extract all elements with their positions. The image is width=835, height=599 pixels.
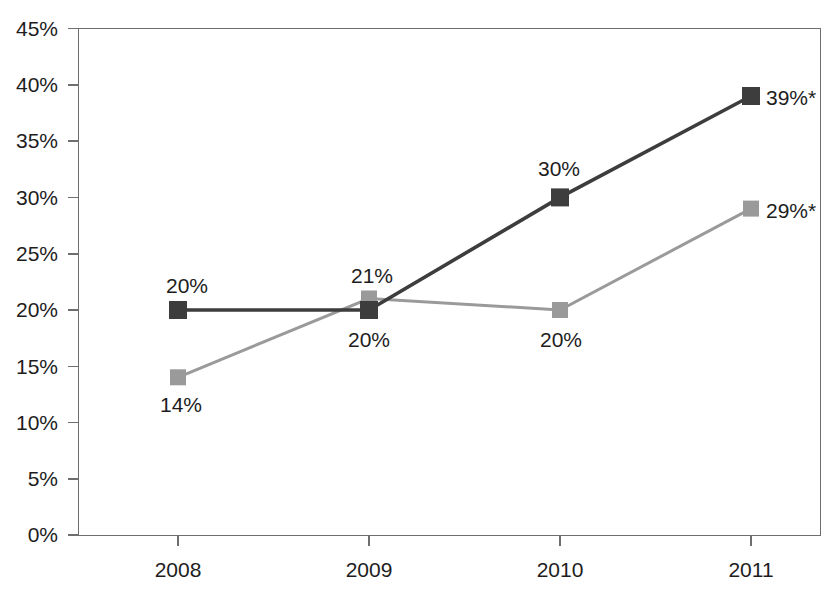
x-tick-label-2011: 2011: [728, 558, 773, 581]
dark-point-label-2010: 30%: [538, 157, 580, 180]
y-tick-label-5: 5%: [28, 467, 58, 490]
series-light-marker-2010: [552, 302, 568, 318]
x-tick-label-2009: 2009: [346, 558, 393, 581]
series-dark-line: [178, 96, 751, 310]
series-light-marker-2011: [743, 201, 759, 217]
chart-canvas: 45% 40% 35% 30% 25% 20% 15% 10% 5% 0% 20…: [0, 0, 835, 599]
y-tick-label-40: 40%: [16, 73, 58, 96]
y-tick-label-45: 45%: [16, 17, 58, 40]
y-tick-label-0: 0%: [28, 523, 58, 546]
x-axis-labels: 2008 2009 2010 2011: [155, 558, 774, 581]
y-tick-label-15: 15%: [16, 355, 58, 378]
x-tick-label-2008: 2008: [155, 558, 202, 581]
light-point-labels: 14% 21% 20% 29%*: [160, 199, 816, 416]
light-point-label-2010: 20%: [540, 328, 582, 351]
dark-point-label-2008: 20%: [166, 274, 208, 297]
light-point-label-2011: 29%*: [766, 199, 816, 222]
series-dark-marker-2011: [742, 87, 760, 105]
line-chart: 45% 40% 35% 30% 25% 20% 15% 10% 5% 0% 20…: [0, 0, 835, 599]
series-dark-series: [169, 87, 760, 319]
light-point-label-2008: 14%: [160, 393, 202, 416]
dark-point-label-2009: 20%: [348, 328, 390, 351]
x-tick-label-2010: 2010: [537, 558, 584, 581]
y-axis-ticks: [68, 29, 79, 536]
series-light-marker-2008: [170, 369, 186, 385]
series-dark-marker-2010: [551, 188, 569, 206]
series-dark-marker-2009: [360, 301, 378, 319]
x-axis-ticks: [178, 536, 751, 547]
y-tick-label-35: 35%: [16, 129, 58, 152]
y-tick-label-30: 30%: [16, 186, 58, 209]
y-tick-label-25: 25%: [16, 242, 58, 265]
series-light-line: [178, 209, 751, 378]
y-axis-labels: 45% 40% 35% 30% 25% 20% 15% 10% 5% 0%: [16, 17, 58, 546]
light-point-label-2009: 21%: [351, 264, 393, 287]
series-dark-marker-2008: [169, 301, 187, 319]
y-tick-label-10: 10%: [16, 411, 58, 434]
y-tick-label-20: 20%: [16, 298, 58, 321]
series-light-series: [170, 201, 759, 386]
dark-point-label-2011: 39%*: [766, 86, 816, 109]
